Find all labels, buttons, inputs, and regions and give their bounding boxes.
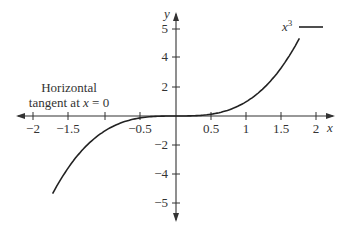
axes: xy (16, 6, 335, 222)
x-tick-label: −1.5 (56, 121, 80, 136)
legend: x3 (281, 18, 323, 34)
x-tick-label: 1 (243, 121, 250, 136)
x-tick-label: −2 (26, 121, 40, 136)
x-tick-label: −0.5 (128, 121, 152, 136)
chart-canvas: xy −2−1.5−0.50.511.52542−2−4−5 x3 Horizo… (0, 0, 353, 233)
y-axis-up-arrow-icon (173, 12, 179, 21)
x-tick-label: 2 (313, 121, 320, 136)
y-tick-label: −5 (154, 195, 168, 210)
y-axis-down-arrow-icon (173, 213, 179, 222)
annotation-line-1: Horizontal (41, 80, 97, 95)
annotation-line-2: tangent at x = 0 (29, 95, 109, 110)
legend-label: x3 (281, 18, 293, 34)
x-axis-right-arrow-icon (326, 113, 335, 119)
y-tick-label: −2 (154, 137, 168, 152)
y-axis-label: y (162, 6, 170, 21)
annotation-horizontal-tangent: Horizontal tangent at x = 0 (29, 80, 109, 110)
y-tick-label: 5 (162, 21, 169, 36)
y-tick-label: −4 (154, 166, 168, 181)
x-axis-left-arrow-icon (16, 113, 25, 119)
x-tick-label: 1.5 (273, 121, 289, 136)
cubic-function-chart: xy −2−1.5−0.50.511.52542−2−4−5 x3 Horizo… (0, 0, 353, 233)
x-tick-label: 0.5 (203, 121, 219, 136)
x-axis-label: x (326, 120, 333, 135)
y-tick-label: 4 (162, 49, 169, 64)
y-tick-label: 2 (162, 79, 169, 94)
